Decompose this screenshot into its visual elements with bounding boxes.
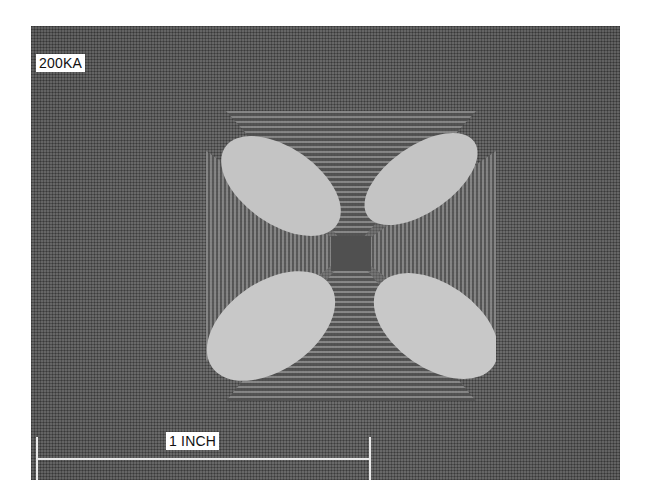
photograph: 200KA 1 INCH <box>31 26 620 480</box>
current-label: 200KA <box>36 54 85 72</box>
scale-bar-label: 1 INCH <box>166 432 219 450</box>
x-shaped-pattern <box>206 111 496 401</box>
scale-bar-line <box>38 458 369 460</box>
scale-bar-right-tick <box>369 437 371 480</box>
